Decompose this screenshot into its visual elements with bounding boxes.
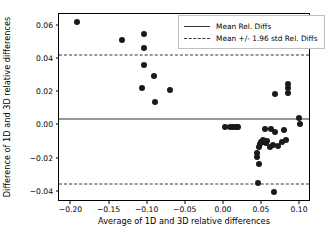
- y-tick-mark: [56, 124, 60, 125]
- legend-label: Mean +/- 1.96 std Rel. Diffs: [216, 34, 318, 43]
- x-tick-mark: [108, 200, 109, 204]
- x-tick-mark: [70, 200, 71, 204]
- reference-line-lower-limit: [59, 184, 309, 185]
- y-axis-title: Difference of 1D and 3D relative differe…: [0, 13, 14, 201]
- y-tick-mark: [56, 157, 60, 158]
- x-tick-label: −0.05: [173, 205, 196, 214]
- x-axis-title: Average of 1D and 3D relative difference…: [58, 216, 310, 226]
- y-tick-mark: [56, 190, 60, 191]
- x-tick-mark: [299, 200, 300, 204]
- legend-key-dashed: [184, 38, 210, 39]
- data-point: [141, 31, 147, 37]
- data-point: [139, 85, 145, 91]
- y-tick-label: −0.02: [30, 153, 53, 162]
- data-point: [151, 73, 157, 79]
- data-point: [119, 37, 125, 43]
- data-point: [141, 45, 147, 51]
- data-point: [255, 180, 261, 186]
- data-point: [262, 126, 268, 132]
- y-tick-label: 0.04: [36, 54, 53, 63]
- data-point: [271, 189, 277, 195]
- legend-item: Mean +/- 1.96 std Rel. Diffs: [184, 32, 318, 44]
- y-tick-label: 0.02: [36, 87, 53, 96]
- data-point: [272, 91, 278, 97]
- y-tick-label: 0.06: [36, 20, 53, 29]
- data-point: [283, 137, 289, 143]
- y-tick-mark: [56, 58, 60, 59]
- data-point: [285, 90, 291, 96]
- y-tick-mark: [56, 91, 60, 92]
- legend-label: Mean Rel. Diffs: [216, 22, 271, 31]
- data-point: [152, 99, 158, 105]
- x-tick-label: −0.20: [59, 205, 82, 214]
- x-tick-label: 0.00: [214, 205, 231, 214]
- legend-key-solid: [184, 26, 210, 27]
- y-tick-label: −0.04: [30, 186, 53, 195]
- reference-line-mean: [59, 119, 309, 120]
- reference-line-upper-limit: [59, 54, 309, 55]
- data-point: [235, 124, 241, 130]
- x-tick-label: −0.15: [97, 205, 120, 214]
- data-point: [254, 154, 260, 160]
- y-tick-label: 0.00: [36, 120, 53, 129]
- legend: Mean Rel. DiffsMean +/- 1.96 std Rel. Di…: [178, 15, 325, 49]
- x-tick-label: 0.05: [253, 205, 270, 214]
- data-point: [297, 121, 303, 127]
- x-axis-title-text: Average of 1D and 3D relative difference…: [98, 216, 270, 226]
- x-tick-mark: [260, 200, 261, 204]
- x-tick-label: −0.10: [135, 205, 158, 214]
- data-point: [141, 62, 147, 68]
- data-point: [256, 161, 262, 167]
- data-point: [272, 129, 278, 135]
- x-tick-mark: [146, 200, 147, 204]
- x-tick-mark: [184, 200, 185, 204]
- data-point: [264, 138, 270, 144]
- data-point: [167, 87, 173, 93]
- data-point: [281, 127, 287, 133]
- y-tick-mark: [56, 24, 60, 25]
- x-tick-mark: [222, 200, 223, 204]
- x-tick-label: 0.10: [291, 205, 308, 214]
- legend-item: Mean Rel. Diffs: [184, 20, 318, 32]
- data-point: [74, 19, 80, 25]
- bland-altman-figure: Difference of 1D and 3D relative differe…: [0, 0, 328, 237]
- y-axis-title-text: Difference of 1D and 3D relative differe…: [2, 17, 12, 197]
